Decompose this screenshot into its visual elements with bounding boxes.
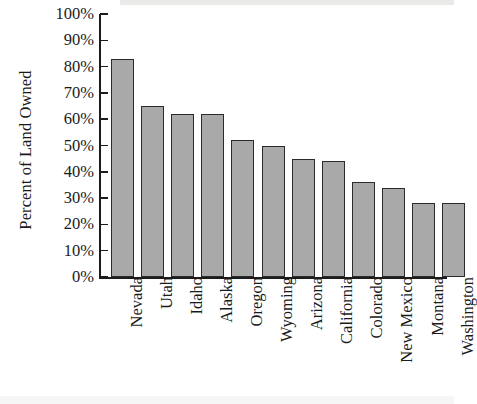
x-axis-category-label: Colorado <box>369 277 386 397</box>
y-axis-tick-label: 0% <box>40 269 94 286</box>
bar <box>412 203 435 277</box>
bar <box>262 146 285 278</box>
bar <box>201 114 224 277</box>
x-axis-category-label: New Mexico <box>399 277 416 397</box>
x-axis-category-labels: NevadaUtahIdahoAlaskaOregonWyomingArizon… <box>99 277 447 404</box>
x-axis-category-label: Nevada <box>129 277 146 397</box>
bar <box>442 203 465 277</box>
x-axis-category-label: Utah <box>159 277 176 397</box>
bar <box>171 114 194 277</box>
x-axis-category-label: Oregon <box>249 277 266 397</box>
bar <box>141 106 164 277</box>
y-axis-tick-label: 80% <box>40 59 94 76</box>
x-axis-category-label: Alaska <box>219 277 236 397</box>
x-axis-category-label: Montana <box>430 277 447 397</box>
y-axis-tick-label: 20% <box>40 216 94 233</box>
bar <box>111 59 134 277</box>
y-axis-tick-label: 30% <box>40 190 94 207</box>
x-axis-category-label: Idaho <box>189 277 206 397</box>
bar <box>292 159 315 277</box>
bar <box>322 161 345 277</box>
x-axis-category-label: California <box>339 277 356 397</box>
bar <box>382 188 405 277</box>
y-axis-tick-labels: 100%90%80%70%60%50%40%30%20%10%0% <box>40 0 94 404</box>
y-axis-title: Percent of Land Owned <box>13 10 39 290</box>
y-axis-tick-label: 90% <box>40 32 94 49</box>
y-axis-tick-label: 60% <box>40 111 94 128</box>
bar <box>352 182 375 277</box>
x-axis-category-label: Wyoming <box>279 277 296 397</box>
bar-series <box>99 14 447 277</box>
plot-area <box>99 14 447 277</box>
bar <box>231 140 254 277</box>
y-axis-tick-label: 100% <box>40 6 94 23</box>
y-axis-tick-label: 40% <box>40 164 94 181</box>
scan-artifact-top <box>120 0 454 5</box>
y-axis-tick-label: 10% <box>40 243 94 260</box>
y-axis-tick-label: 70% <box>40 85 94 102</box>
y-axis-tick-label: 50% <box>40 138 94 155</box>
x-axis-category-label: Arizona <box>309 277 326 397</box>
x-axis-category-label: Washington <box>460 277 477 397</box>
